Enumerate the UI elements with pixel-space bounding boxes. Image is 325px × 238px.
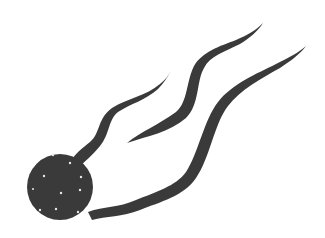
speckle bbox=[55, 208, 57, 210]
speckle bbox=[39, 209, 41, 211]
comet-nucleus bbox=[27, 154, 93, 220]
speckle bbox=[60, 192, 62, 194]
speckle bbox=[80, 176, 82, 178]
speckle bbox=[69, 162, 71, 164]
tail-upper bbox=[70, 71, 171, 168]
speckle bbox=[77, 211, 79, 213]
speckle bbox=[52, 154, 54, 156]
comet-illustration bbox=[0, 0, 325, 238]
speckle bbox=[79, 189, 81, 191]
speckle bbox=[32, 188, 34, 190]
speckle bbox=[43, 175, 45, 177]
